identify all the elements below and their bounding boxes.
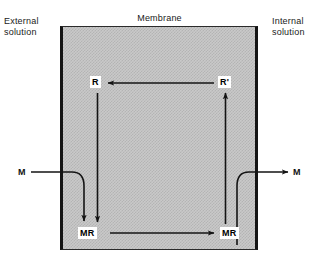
arrow-overlay: [0, 0, 319, 264]
species-complex-outer: MR: [78, 227, 97, 239]
species-carrier-outer: R: [90, 76, 101, 88]
species-carrier-inner: R': [218, 76, 231, 88]
figure-canvas: Membrane External solution Internal solu…: [0, 0, 319, 264]
species-solute-external: M: [18, 167, 26, 178]
arrow-solute-release: [237, 172, 288, 245]
species-complex-inner: MR: [220, 227, 239, 239]
arrow-solute-uptake: [31, 172, 84, 221]
species-solute-internal: M: [293, 167, 301, 178]
